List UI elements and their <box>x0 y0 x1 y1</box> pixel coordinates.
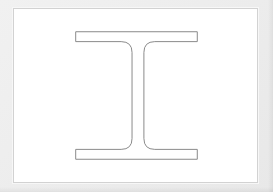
application-root <box>0 0 273 192</box>
ibeam-outline-path[interactable] <box>76 32 198 160</box>
ibeam-cross-section-drawing[interactable] <box>14 9 257 182</box>
drawing-canvas[interactable] <box>13 8 258 183</box>
drawing-area[interactable] <box>14 9 257 182</box>
